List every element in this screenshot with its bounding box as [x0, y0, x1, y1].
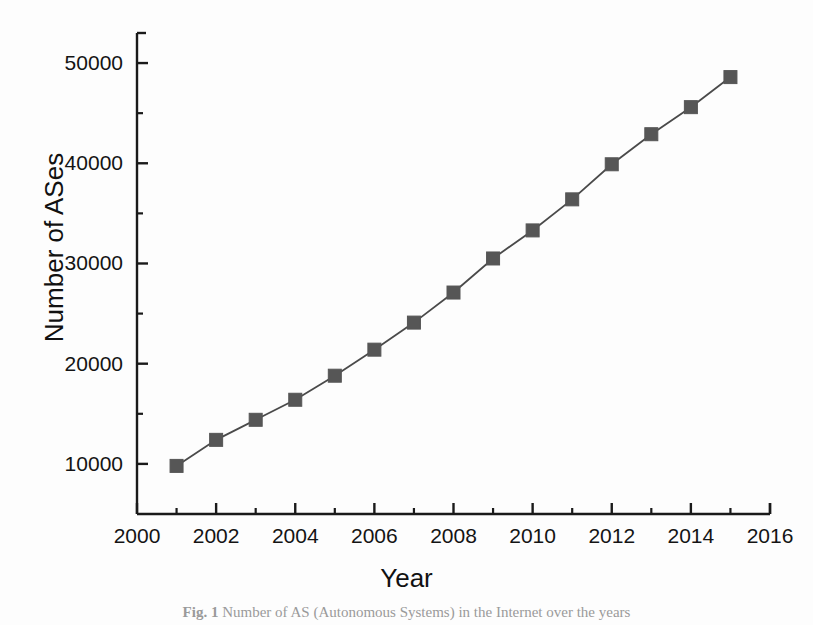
data-point-marker[interactable] [289, 393, 302, 406]
data-point-marker[interactable] [249, 413, 262, 426]
x-tick-label: 2008 [430, 524, 477, 548]
x-tick-label: 2016 [747, 524, 794, 548]
data-point-marker[interactable] [605, 158, 618, 171]
data-point-marker[interactable] [407, 316, 420, 329]
data-point-marker[interactable] [210, 433, 223, 446]
data-point-marker[interactable] [368, 343, 381, 356]
data-point-marker[interactable] [566, 193, 579, 206]
x-tick-label: 2004 [272, 524, 319, 548]
figure-page: 1000020000300004000050000 20002002200420… [0, 0, 813, 625]
x-axis-title: Year [0, 563, 813, 594]
data-point-marker[interactable] [526, 224, 539, 237]
x-tick-label: 2014 [668, 524, 715, 548]
x-tick-label: 2000 [114, 524, 161, 548]
figure-caption: Fig. 1 Number of AS (Autonomous Systems)… [0, 604, 813, 621]
data-point-marker[interactable] [328, 369, 341, 382]
data-point-marker[interactable] [447, 286, 460, 299]
line-chart-plot [0, 0, 813, 600]
y-axis-title: Number of ASes [39, 153, 69, 342]
chart-figure: 1000020000300004000050000 20002002200420… [0, 0, 813, 600]
figure-caption-text: Number of AS (Autonomous Systems) in the… [222, 604, 630, 620]
data-point-marker[interactable] [170, 459, 183, 472]
y-axis-title-container: Number of ASes [39, 0, 70, 498]
data-point-marker[interactable] [645, 128, 658, 141]
x-tick-label: 2006 [351, 524, 398, 548]
data-point-marker[interactable] [724, 71, 737, 84]
x-tick-label: 2002 [193, 524, 240, 548]
x-tick-label: 2010 [509, 524, 556, 548]
x-tick-label: 2012 [588, 524, 635, 548]
data-point-marker[interactable] [487, 252, 500, 265]
figure-caption-label: Fig. 1 [183, 604, 219, 620]
data-point-marker[interactable] [684, 101, 697, 114]
